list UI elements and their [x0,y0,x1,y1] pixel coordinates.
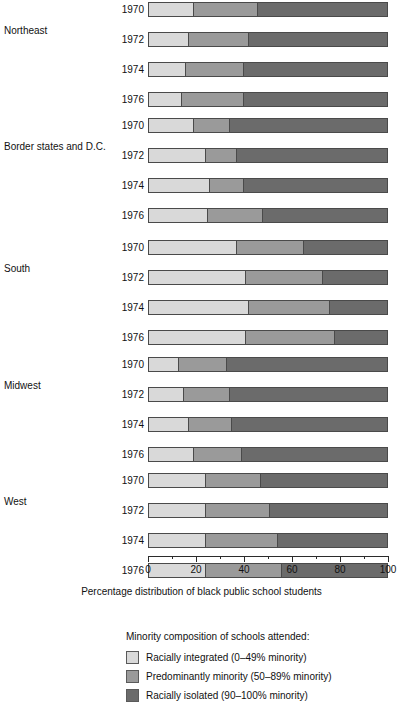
axis-tick-major [292,556,293,562]
year-label: 1970 [122,241,144,254]
bar-segment-integrated [148,92,182,107]
bar-segment-integrated [148,32,189,47]
bar-segment-predominantly [179,357,227,372]
axis-tick-label: 40 [238,564,249,576]
year-label: 1972 [122,504,144,517]
region-group: Border states and D.C.1970197219741976 [0,118,403,178]
bar-segment-predominantly [210,178,244,193]
year-label: 1972 [122,271,144,284]
region-label: Border states and D.C. [4,141,106,153]
bar-segment-integrated [148,2,194,17]
bar-row: 1974 [148,300,388,315]
region-group: South1970197219741976 [0,240,403,300]
axis-tick-minor [172,556,173,559]
year-label: 1976 [122,564,144,577]
legend-item-predominantly: Predominantly minority (50–89% minority) [126,667,403,686]
year-label: 1970 [122,3,144,16]
bar-segment-predominantly [206,473,261,488]
bar-row: 1976 [148,330,388,345]
bar-segment-predominantly [194,447,242,462]
bar-row: 1972 [148,503,388,518]
axis-tick-label: 20 [190,564,201,576]
legend-item-integrated: Racially integrated (0–49% minority) [126,648,403,667]
bar-segment-predominantly [206,148,237,163]
legend-title: Minority composition of schools attended… [126,630,403,643]
year-label: 1974 [122,534,144,547]
legend-swatch-predominantly [126,670,139,683]
bar-segment-integrated [148,503,206,518]
bar-segment-predominantly [208,208,263,223]
legend-swatch-integrated [126,651,139,664]
bar-segment-isolated [330,300,388,315]
region-label: South [4,263,30,275]
bar-segment-predominantly [189,32,249,47]
bar-segment-isolated [263,208,388,223]
axis-tick-label: 100 [380,564,397,576]
group-bars: 1970197219741976 [148,240,388,300]
bar-row: 1970 [148,2,388,17]
year-label: 1976 [122,209,144,222]
axis-tick-label: 0 [145,564,151,576]
bar-segment-isolated [244,62,388,77]
bar-segment-predominantly [246,330,335,345]
axis-tick-label: 80 [334,564,345,576]
bar-segment-isolated [242,447,388,462]
bar-segment-integrated [148,300,249,315]
legend-swatch-isolated [126,689,139,702]
bar-segment-isolated [261,473,388,488]
year-label: 1974 [122,301,144,314]
bar-segment-integrated [148,330,246,345]
region-group: Northeast1970197219741976 [0,2,403,62]
bar-segment-integrated [148,178,210,193]
bar-segment-isolated [249,32,388,47]
bar-segment-isolated [232,417,388,432]
bar-segment-predominantly [237,240,304,255]
axis-tick-major [196,556,197,562]
axis-tick-major [388,556,389,562]
bar-segment-predominantly [194,2,259,17]
x-axis: 020406080100 [148,556,388,586]
bar-segment-isolated [244,92,388,107]
group-bars: 1970197219741976 [148,118,388,178]
axis-tick-minor [364,556,365,559]
bar-row: 1972 [148,148,388,163]
bar-segment-isolated [258,2,388,17]
year-label: 1974 [122,63,144,76]
bar-row: 1972 [148,387,388,402]
axis-tick-label: 60 [286,564,297,576]
bar-segment-isolated [304,240,388,255]
legend-label: Racially isolated (90–100% minority) [146,689,308,702]
year-label: 1976 [122,448,144,461]
bar-row: 1972 [148,32,388,47]
bar-segment-integrated [148,417,189,432]
region-label: Midwest [4,380,41,392]
legend-label: Racially integrated (0–49% minority) [146,651,307,664]
year-label: 1972 [122,33,144,46]
legend-label: Predominantly minority (50–89% minority) [146,670,332,683]
axis-tick-major [340,556,341,562]
bar-segment-predominantly [206,533,278,548]
bar-segment-predominantly [186,62,244,77]
bar-segment-isolated [323,270,388,285]
legend-item-isolated: Racially isolated (90–100% minority) [126,686,403,705]
axis-tick-minor [220,556,221,559]
group-bars: 1970197219741976 [148,357,388,417]
bar-segment-predominantly [182,92,244,107]
x-axis-title: Percentage distribution of black public … [0,585,403,598]
year-label: 1970 [122,119,144,132]
bar-row: 1970 [148,357,388,372]
axis-tick-major [148,556,149,562]
group-bars: 1970197219741976 [148,2,388,62]
bar-row: 1974 [148,417,388,432]
year-label: 1976 [122,331,144,344]
bar-segment-integrated [148,62,186,77]
bar-segment-isolated [244,178,388,193]
bar-segment-integrated [148,208,208,223]
region-label: Northeast [4,25,47,37]
bar-segment-isolated [237,148,388,163]
year-label: 1970 [122,358,144,371]
bar-segment-isolated [278,533,388,548]
bar-segment-predominantly [184,387,230,402]
bar-segment-predominantly [194,118,230,133]
year-label: 1972 [122,149,144,162]
